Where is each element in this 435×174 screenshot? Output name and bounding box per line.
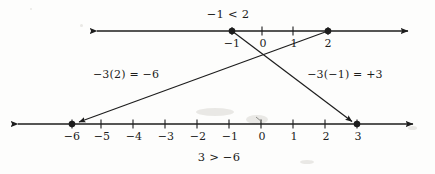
top-number-line	[97, 27, 408, 36]
top-tick-label-minus1: −1	[224, 37, 241, 50]
bottom-tick-label-minus4: −4	[126, 130, 143, 143]
bottom-tick-label-1: 1	[290, 130, 297, 143]
bottom-tick-label-minus5: −5	[94, 130, 111, 143]
bottom-tick-label-3: 3	[354, 130, 361, 143]
bottom-tick-label-minus1: −1	[222, 130, 239, 143]
figure-canvas	[0, 0, 435, 174]
bottom-tick-label-minus3: −3	[158, 130, 175, 143]
bottom-tick-label-2: 2	[322, 130, 329, 143]
top-tick-label-2: 2	[324, 37, 331, 50]
top-tick-label-1: 1	[290, 37, 297, 50]
bottom-tick-label-minus6: −6	[64, 130, 81, 143]
bottom-point-minus6	[69, 121, 76, 128]
bottom-number-line	[18, 120, 413, 129]
bottom-tick-label-minus2: −2	[190, 130, 207, 143]
bottom-tick-label-0: 0	[258, 130, 265, 143]
inequality-number-line-figure: −1 < 2 −1 0 1 2 −3(2) = −6 −3(−1) = +3 −…	[0, 0, 435, 174]
bottom-inequality-label: 3 > −6	[198, 150, 240, 164]
bottom-point-3	[354, 121, 361, 128]
right-mapping-expression: −3(−1) = +3	[307, 68, 383, 81]
left-mapping-expression: −3(2) = −6	[93, 68, 159, 81]
top-inequality-label: −1 < 2	[207, 7, 249, 21]
top-tick-label-0: 0	[259, 37, 266, 50]
